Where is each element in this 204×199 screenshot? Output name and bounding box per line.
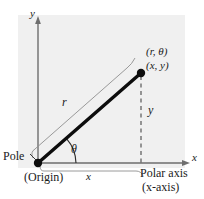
polar-coordinates-figure: y r y (r, θ) (x, y) θ Pole (Origin) x x … [0,0,204,199]
horizontal-leg-label: x [86,171,91,182]
y-axis-label: y [30,8,35,19]
x-axis-sublabel: (x-axis) [142,181,179,193]
x-axis-label: x [192,152,197,163]
vertical-leg-label: y [148,104,153,116]
origin-marker [34,159,42,167]
point-rectangular-coordinates-label: (x, y) [146,60,169,71]
origin-label: (Origin) [24,171,63,183]
background-panel [18,15,185,168]
angle-theta-label: θ [71,143,77,155]
point-polar-coordinates-label: (r, θ) [146,46,167,57]
point-marker [137,69,145,77]
pole-label: Pole [3,150,24,162]
polar-axis-label: Polar axis [140,167,188,179]
radius-label: r [62,96,67,108]
